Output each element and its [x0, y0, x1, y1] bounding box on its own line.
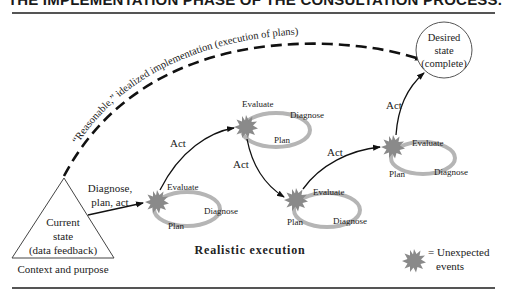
svg-text:Desired: Desired: [428, 32, 461, 43]
act-label-1: Act: [170, 137, 186, 149]
context-caption: Context and purpose: [17, 263, 108, 275]
svg-text:Current: Current: [46, 216, 80, 228]
cycle-1: Evaluate Diagnose Plan: [145, 182, 238, 231]
realistic-execution-label: Realistic execution: [195, 243, 306, 257]
svg-text:Evaluate: Evaluate: [412, 138, 443, 148]
cycle-3: Evaluate Diagnose Plan: [284, 187, 367, 227]
svg-text:state: state: [53, 230, 73, 242]
svg-text:(complete): (complete): [421, 58, 467, 70]
svg-text:Diagnose: Diagnose: [204, 206, 238, 216]
svg-text:Evaluate: Evaluate: [242, 99, 273, 109]
svg-text:Evaluate: Evaluate: [313, 187, 344, 197]
act-label-3: Act: [327, 146, 343, 158]
svg-text:Evaluate: Evaluate: [167, 182, 198, 192]
initial-transition-label-2: plan, act: [91, 196, 128, 208]
svg-text:state: state: [434, 45, 454, 56]
act-label-4: Act: [386, 99, 402, 111]
cycle-4: Evaluate Diagnose Plan: [381, 135, 468, 179]
svg-text:Plan: Plan: [389, 169, 406, 179]
legend: = Unexpected events: [402, 246, 490, 273]
svg-text:Plan: Plan: [287, 217, 304, 227]
svg-text:Diagnose: Diagnose: [333, 216, 367, 226]
act-label-2: Act: [233, 158, 249, 170]
svg-text:(data feedback): (data feedback): [29, 244, 97, 257]
svg-text:Plan: Plan: [274, 135, 291, 145]
idealized-path-label: “Reasonable,” idealized implementation (…: [70, 25, 299, 145]
svg-text:Diagnose: Diagnose: [434, 167, 468, 177]
desired-state-node: Desired state (complete): [416, 22, 472, 78]
consultation-diagram: “Reasonable,” idealized implementation (…: [0, 0, 510, 294]
initial-transition-label-1: Diagnose,: [88, 182, 133, 194]
svg-text:= Unexpected: = Unexpected: [428, 246, 490, 258]
svg-text:Diagnose: Diagnose: [290, 110, 324, 120]
svg-text:Plan: Plan: [168, 221, 185, 231]
idealized-path: [64, 44, 422, 176]
unexpected-event-icon: [402, 249, 426, 273]
svg-text:events: events: [436, 260, 464, 272]
